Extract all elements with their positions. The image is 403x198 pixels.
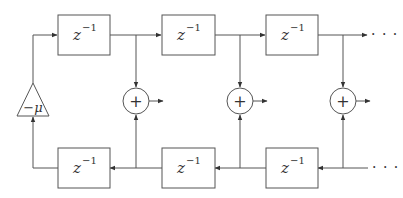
top-delay-1: z −1 [58,15,110,55]
delay-label-exponent: −1 [290,22,305,33]
delay-label-base: z [176,26,185,44]
adder-3: + [330,88,356,114]
adder-1: + [123,88,149,114]
top-delay-2: z −1 [162,15,215,55]
gain-label: −μ [23,100,42,115]
gain-block: −μ [17,83,49,116]
adder-plus-symbol: + [336,92,349,111]
block-diagram: z −1 z −1 z −1 z −1 z −1 z −1 + + + [0,0,403,198]
delay-label-base: z [72,26,81,44]
adder-plus-symbol: + [233,92,246,111]
wire-gain-to-top-delay-1 [33,35,57,83]
delay-label-base: z [280,26,289,44]
bottom-delay-2: z −1 [162,148,215,188]
continuation-dots-bottom: · · · [372,159,399,175]
delay-label-exponent: −1 [82,155,97,166]
bottom-delay-3: z −1 [266,148,318,188]
delay-label-base: z [280,159,289,177]
delay-label-exponent: −1 [82,22,97,33]
delay-label-exponent: −1 [186,22,201,33]
delay-label-exponent: −1 [186,155,201,166]
wire-bottom-delay-1-to-gain [33,117,58,168]
continuation-dots-top: · · · [371,26,398,42]
bottom-delay-1: z −1 [58,148,110,188]
delay-label-base: z [176,159,185,177]
adder-2: + [227,88,253,114]
delay-label-base: z [72,159,81,177]
top-delay-3: z −1 [266,15,318,55]
delay-label-exponent: −1 [290,155,305,166]
adder-plus-symbol: + [129,92,142,111]
